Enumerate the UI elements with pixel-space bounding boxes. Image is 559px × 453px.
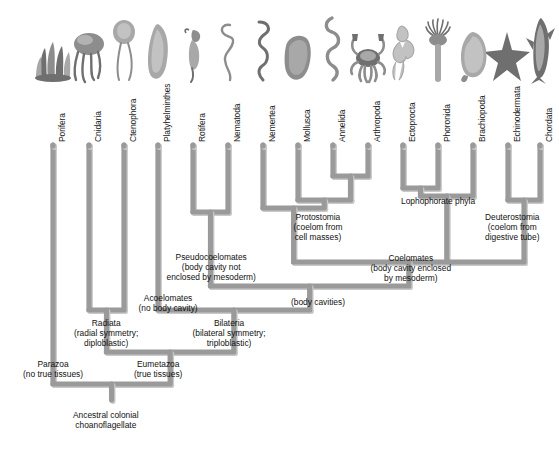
node-label-protostomia: Protostomia(coelom fromcell masses) <box>294 212 343 243</box>
taxon-label-nematoda: Nematoda <box>232 104 242 142</box>
node-label-bilateria: Bilateria(bilateral symmetry;triploblast… <box>193 318 266 349</box>
node-label-eumetazoa: Eumetazoa(true tissues) <box>134 359 182 379</box>
node-label-line: (coelom from <box>294 222 343 232</box>
node-label-line: (body cavity enclosed <box>371 263 452 273</box>
taxon-label-porifera: Porifera <box>57 113 67 142</box>
cladogram-figure: PoriferaCnidariaCtenophoraPlatyhelminthe… <box>0 0 559 453</box>
tree-branches <box>0 0 559 453</box>
node-label-line: cell masses) <box>294 232 343 242</box>
node-label-line: (body cavity not <box>167 262 256 272</box>
taxon-label-ectoprocta: Ectoprocta <box>407 102 417 142</box>
node-label-line: Pseudocoelomates <box>167 252 256 262</box>
node-label-line: (no true tissues) <box>23 369 83 379</box>
taxon-label-phoronida: Phoronida <box>442 104 452 142</box>
taxon-label-nemertea: Nemertea <box>267 105 277 142</box>
taxon-label-annelida: Annelida <box>337 110 347 142</box>
node-label-line: (body cavities) <box>291 297 345 307</box>
node-label-line: Protostomia <box>294 212 343 222</box>
node-label-line: Acoelomates <box>139 293 198 303</box>
node-label-line: Ancestral colonial <box>73 410 139 420</box>
node-label-radiata: Radiata(radial symmetry;diploblastic) <box>74 318 138 349</box>
taxon-label-cnidaria: Cnidaria <box>93 111 103 142</box>
node-label-line: digestive tube) <box>485 232 539 242</box>
node-label-line: Deuterostomia <box>485 212 539 222</box>
node-label-parazoa: Parazoa(no true tissues) <box>23 359 83 379</box>
taxon-label-platyhelminthes: Platyhelminthes <box>162 83 172 142</box>
taxon-label-brachiopoda: Brachiopoda <box>477 95 487 142</box>
node-label-pseudocoelomates: Pseudocoelomates(body cavity notenclosed… <box>167 252 256 283</box>
node-label-line: triploblastic) <box>193 338 266 348</box>
node-label-line: (bilateral symmetry; <box>193 328 266 338</box>
node-label-line: enclosed by mesoderm) <box>167 272 256 282</box>
node-label-line: Radiata <box>74 318 138 328</box>
taxon-label-chordata: Chordata <box>544 108 554 142</box>
node-label-line: Coelomates <box>371 253 452 263</box>
node-label-lophophorate: Lophophorate phyla <box>401 196 475 206</box>
taxon-label-ctenophora: Ctenophora <box>128 99 138 142</box>
node-label-line: Eumetazoa <box>134 359 182 369</box>
node-label-ancestor: Ancestral colonialchoanoflagellate <box>73 410 139 430</box>
node-label-line: diploblastic) <box>74 338 138 348</box>
taxon-label-arthropoda: Arthropoda <box>372 101 382 142</box>
taxon-label-rotifera: Rotifera <box>197 113 207 142</box>
node-label-line: Lophophorate phyla <box>401 196 475 206</box>
node-label-line: (no body cavity) <box>139 303 198 313</box>
node-label-line: by mesoderm) <box>371 273 452 283</box>
node-label-line: (coelom from <box>485 222 539 232</box>
taxon-label-echinodermata: Echinodermata <box>512 86 522 142</box>
node-label-line: choanoflagellate <box>73 420 139 430</box>
node-label-body-cavities: (body cavities) <box>291 297 345 307</box>
node-label-coelomates: Coelomates(body cavity enclosedby mesode… <box>371 253 452 284</box>
node-label-line: Bilateria <box>193 318 266 328</box>
taxon-label-mollusca: Mollusca <box>302 109 312 142</box>
node-label-acoelomates: Acoelomates(no body cavity) <box>139 293 198 313</box>
node-label-line: (radial symmetry; <box>74 328 138 338</box>
node-label-deuterostomia: Deuterostomia(coelom fromdigestive tube) <box>485 212 539 243</box>
node-label-line: Parazoa <box>23 359 83 369</box>
node-label-line: (true tissues) <box>134 369 182 379</box>
